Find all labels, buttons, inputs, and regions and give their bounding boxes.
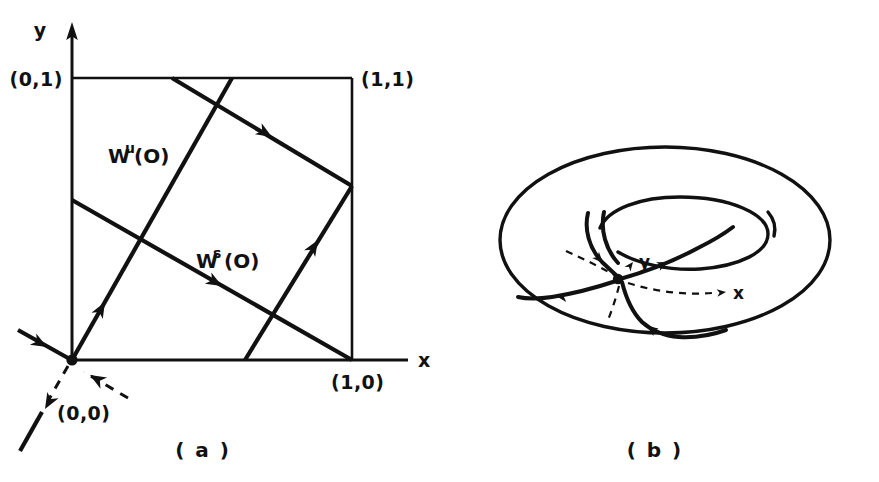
stable-manifold-label: W s (O) xyxy=(196,245,259,273)
corner-label-top-right: (1,1) xyxy=(361,68,415,90)
panel-b-caption: ( b ) xyxy=(627,438,684,462)
stable-manifold-label-sup: s xyxy=(213,245,221,261)
panel-a-axes xyxy=(66,22,408,360)
corner-label-origin: (0,0) xyxy=(57,402,111,424)
torus-x-axis-arrowhead xyxy=(717,288,727,297)
torus-y-axis-dashed-left xyxy=(566,251,616,276)
stable-incoming-lower-right xyxy=(84,372,128,398)
stable-manifold-wso xyxy=(72,78,352,360)
panel-a: y x (0,1) (1,1) (1,0) (0,0) W u (O) W s … xyxy=(9,19,430,462)
figure-root: y x (0,1) (1,1) (1,0) (0,0) W u (O) W s … xyxy=(0,0,879,482)
torus-fixed-point-dot xyxy=(613,274,623,284)
unit-square-border xyxy=(72,78,352,360)
unstable-manifold-wuo xyxy=(72,78,352,360)
corner-label-top-left: (0,1) xyxy=(9,68,63,90)
unstable-manifold-label-arg: (O) xyxy=(134,144,169,168)
panel-b-labels: y x ( b ) xyxy=(627,252,744,462)
panel-a-caption: ( a ) xyxy=(175,438,231,462)
corner-label-bottom-right: (1,0) xyxy=(331,371,385,393)
panel-b: y x ( b ) xyxy=(500,147,830,462)
stable-manifold-label-arg: (O) xyxy=(224,249,259,273)
torus-y-axis-dashed-below xyxy=(608,286,619,320)
torus-x-axis-label: x xyxy=(733,283,744,303)
stable-incoming-arrow-lower-right xyxy=(87,369,107,388)
x-axis-label: x xyxy=(418,349,430,371)
figure-svg: y x (0,1) (1,1) (1,0) (0,0) W u (O) W s … xyxy=(0,0,879,482)
unstable-arrow-lower xyxy=(91,299,110,319)
torus-inner-hole-outline xyxy=(600,197,768,269)
torus-y-axis-label: y xyxy=(639,252,650,272)
fixed-point-origin-dot xyxy=(66,354,77,365)
unstable-outgoing-lower-left-tail xyxy=(20,412,42,451)
torus-outer-outline xyxy=(500,147,830,333)
y-axis-label: y xyxy=(34,19,47,41)
torus-x-axis-dashed xyxy=(628,283,712,294)
torus-flow-curves xyxy=(518,212,733,337)
unstable-outgoing-arrow-lower-left xyxy=(39,392,58,412)
flow-unstable-right xyxy=(620,227,733,279)
unstable-outgoing-lower-left-dashed xyxy=(48,366,68,401)
unstable-manifold-label: W u (O) xyxy=(108,140,169,168)
